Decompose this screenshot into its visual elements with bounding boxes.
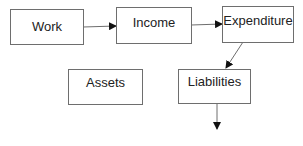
node-assets: Assets	[68, 69, 143, 105]
node-liabilities-label: Liabilities	[179, 70, 250, 89]
node-work-label: Work	[11, 10, 83, 34]
arrow-expenditure-to-liabilities	[226, 42, 243, 68]
node-expenditure-label: Expenditure	[223, 7, 293, 28]
node-income: Income	[116, 7, 192, 44]
arrow-work-to-income	[83, 26, 116, 27]
arrow-income-to-expenditure	[191, 24, 222, 25]
node-expenditure: Expenditure	[222, 6, 294, 43]
node-work: Work	[10, 9, 84, 45]
node-liabilities: Liabilities	[178, 69, 251, 104]
node-assets-label: Assets	[69, 70, 142, 90]
node-income-label: Income	[117, 8, 191, 30]
